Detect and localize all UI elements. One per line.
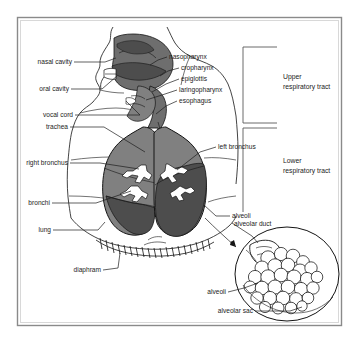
magnification-arrow [205, 218, 236, 247]
label-laringopharynx: laringopharynx [179, 86, 223, 94]
label-right-bronchus: right bronchus [26, 159, 68, 167]
label-upper-tract-line2: respiratory tract [283, 83, 330, 91]
label-lower-tract-line2: respiratory tract [283, 167, 330, 175]
label-bronchi: bronchi [28, 199, 50, 206]
label-cropharynx: cropharynx [181, 64, 214, 72]
label-oral-cavity: oral cavity [39, 85, 69, 93]
label-epiglottis: epiglottis [181, 75, 208, 83]
label-alveolar-duct: alveolar duct [234, 220, 272, 227]
respiratory-tract-brackets [243, 47, 277, 212]
diagram-canvas: nasal cavity oral cavity vocal cord trac… [0, 0, 359, 343]
lungs-group [103, 127, 207, 245]
label-alveoli-lung: alveoli [232, 212, 251, 219]
label-trachea: trachea [46, 123, 68, 130]
label-vocal-cord: vocal cord [43, 111, 73, 118]
head-airway-structures [101, 34, 173, 140]
diaphragm-shape [96, 238, 214, 258]
label-nasopharynx: nasopharynx [169, 53, 207, 61]
label-lung: lung [39, 226, 52, 234]
label-esophagus: esophagus [179, 97, 212, 105]
label-alveolar-sac: alveolar sac [218, 307, 254, 314]
lower-tract-bracket [243, 128, 277, 212]
upper-tract-bracket [243, 47, 277, 123]
label-lower-tract-line1: Lower [283, 157, 302, 164]
label-alveoli-detail: alveoli [207, 288, 226, 295]
label-nasal-cavity: nasal cavity [38, 58, 73, 66]
label-left-bronchus: left bronchus [218, 143, 256, 150]
label-diaphram: diaphram [74, 266, 102, 274]
respiratory-system-diagram: nasal cavity oral cavity vocal cord trac… [0, 0, 359, 343]
label-upper-tract-line1: Upper [283, 73, 302, 81]
